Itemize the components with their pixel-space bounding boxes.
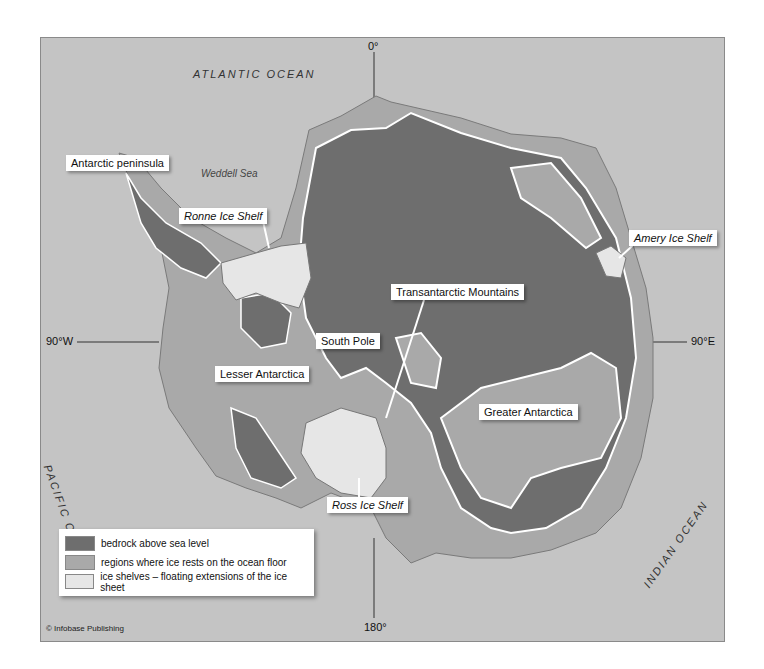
ice-shelf-swatch xyxy=(65,574,94,589)
legend-item-bedrock: bedrock above sea level xyxy=(65,534,308,553)
label-antarctic-peninsula: Antarctic peninsula xyxy=(66,155,169,171)
label-amery-ice-shelf: Amery Ice Shelf xyxy=(629,230,717,246)
map-frame: ATLANTIC OCEAN PACIFIC OCEAN INDIAN OCEA… xyxy=(40,37,725,642)
legend-label: bedrock above sea level xyxy=(101,538,209,549)
label-transantarctic-mountains: Transantarctic Mountains xyxy=(391,284,524,300)
legend-item-ice-shelves: ice shelves – floating extensions of the… xyxy=(65,572,308,591)
ronne-pointer xyxy=(263,221,269,248)
label-ronne-ice-shelf: Ronne Ice Shelf xyxy=(179,208,267,224)
copyright-credit: © Infobase Publishing xyxy=(46,624,124,633)
ocean-floor-ice-swatch xyxy=(65,555,95,570)
atlantic-ocean-label: ATLANTIC OCEAN xyxy=(193,68,316,80)
coord-90e: 90°E xyxy=(691,335,715,347)
legend-item-ocean-floor-ice: regions where ice rests on the ocean flo… xyxy=(65,553,308,572)
bedrock-swatch xyxy=(65,536,95,551)
label-south-pole: South Pole xyxy=(316,333,380,349)
map-legend: bedrock above sea level regions where ic… xyxy=(59,529,314,596)
weddell-sea-label: Weddell Sea xyxy=(201,168,258,179)
label-ross-ice-shelf: Ross Ice Shelf xyxy=(327,497,408,513)
legend-label: ice shelves – floating extensions of the… xyxy=(100,571,308,593)
legend-label: regions where ice rests on the ocean flo… xyxy=(101,557,287,568)
coord-90w: 90°W xyxy=(46,335,73,347)
coord-0: 0° xyxy=(368,40,379,52)
label-greater-antarctica: Greater Antarctica xyxy=(479,404,578,420)
coord-180: 180° xyxy=(364,621,387,633)
label-lesser-antarctica: Lesser Antarctica xyxy=(215,366,309,382)
